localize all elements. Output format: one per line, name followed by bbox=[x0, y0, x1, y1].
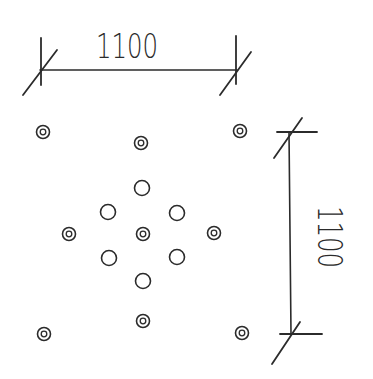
inner-circle-icon bbox=[41, 331, 47, 337]
outer-circle-icon bbox=[208, 227, 221, 240]
slash-mark-bottom bbox=[272, 322, 300, 364]
double-circle-point bbox=[236, 327, 249, 340]
single-circle-point bbox=[102, 251, 117, 266]
double-circle-point bbox=[37, 126, 50, 139]
double-circle-point bbox=[38, 328, 51, 341]
outer-circle-icon bbox=[234, 125, 247, 138]
slash-mark-top bbox=[274, 118, 302, 158]
outer-circle-icon bbox=[135, 181, 150, 196]
double-circle-point bbox=[137, 315, 150, 328]
outer-circle-icon bbox=[135, 137, 148, 150]
single-circle-point bbox=[170, 206, 185, 221]
outer-circle-icon bbox=[137, 228, 150, 241]
horizontal-dimension-label: 1100 bbox=[96, 26, 158, 66]
outer-circle-icon bbox=[137, 315, 150, 328]
layout-diagram: 1100 1100 bbox=[0, 0, 373, 379]
double-circle-point bbox=[63, 228, 76, 241]
double-circle-point bbox=[234, 125, 247, 138]
outer-circle-icon bbox=[38, 328, 51, 341]
inner-circle-icon bbox=[40, 129, 46, 135]
horizontal-dimension: 1100 bbox=[23, 26, 251, 95]
outer-circle-icon bbox=[136, 274, 151, 289]
outer-circle-icon bbox=[101, 205, 116, 220]
single-circle-point bbox=[101, 205, 116, 220]
point-group bbox=[37, 125, 249, 341]
inner-circle-icon bbox=[237, 128, 243, 134]
slash-mark-left bbox=[23, 50, 57, 95]
outer-circle-icon bbox=[236, 327, 249, 340]
outer-circle-icon bbox=[170, 250, 185, 265]
outer-circle-icon bbox=[170, 206, 185, 221]
outer-circle-icon bbox=[63, 228, 76, 241]
inner-circle-icon bbox=[140, 231, 146, 237]
inner-circle-icon bbox=[138, 140, 144, 146]
single-circle-point bbox=[170, 250, 185, 265]
double-circle-point bbox=[137, 228, 150, 241]
outer-circle-icon bbox=[102, 251, 117, 266]
single-circle-point bbox=[135, 181, 150, 196]
outer-circle-icon bbox=[37, 126, 50, 139]
inner-circle-icon bbox=[140, 318, 146, 324]
double-circle-point bbox=[135, 137, 148, 150]
dimension-line bbox=[289, 132, 291, 334]
vertical-dimension: 1100 bbox=[272, 118, 350, 364]
inner-circle-icon bbox=[211, 230, 217, 236]
single-circle-point bbox=[136, 274, 151, 289]
double-circle-point bbox=[208, 227, 221, 240]
inner-circle-icon bbox=[239, 330, 245, 336]
vertical-dimension-label: 1100 bbox=[310, 206, 350, 268]
inner-circle-icon bbox=[66, 231, 72, 237]
